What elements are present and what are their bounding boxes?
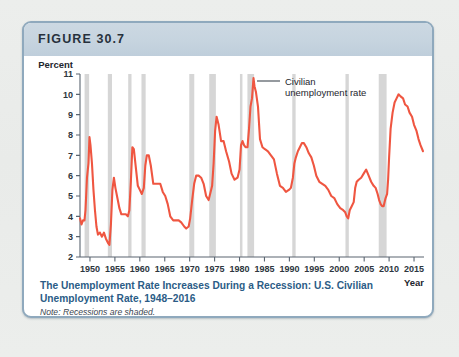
y-axis-title: Percent <box>38 59 74 70</box>
y-tick-label: 10 <box>63 90 73 100</box>
figure-root: FIGURE 30.7 Civilianunemployment rate 23… <box>0 0 459 357</box>
x-tick-label: 2000 <box>329 264 349 274</box>
annotation-label-line1: Civilian <box>285 76 316 87</box>
caption-title: The Unemployment Rate Increases During a… <box>40 279 420 305</box>
unemployment-rate-line-chart: Civilianunemployment rate 23456789101119… <box>24 56 434 286</box>
y-tick-label: 7 <box>68 151 73 161</box>
x-tick-label: 1990 <box>279 264 299 274</box>
recession-band <box>379 74 387 257</box>
recession-band <box>345 74 348 257</box>
x-tick-label: 1970 <box>180 264 200 274</box>
recession-band <box>189 74 194 257</box>
y-tick-label: 5 <box>68 191 73 201</box>
annotation-label-line2: unemployment rate <box>285 87 366 98</box>
x-tick-label: 1955 <box>105 264 125 274</box>
y-tick-label: 6 <box>68 171 73 181</box>
x-tick-label: 2015 <box>404 264 424 274</box>
y-tick-label: 2 <box>68 252 73 262</box>
x-tick-label: 1960 <box>130 264 150 274</box>
x-tick-label: 1965 <box>155 264 175 274</box>
y-tick-label: 11 <box>63 69 73 79</box>
figure-card: FIGURE 30.7 Civilianunemployment rate 23… <box>22 21 434 318</box>
y-tick-label: 3 <box>68 232 73 242</box>
recession-bands-group <box>85 74 387 257</box>
caption-note: Note: Recessions are shaded. <box>40 307 420 318</box>
x-tick-label: 1975 <box>205 264 225 274</box>
figure-number-label: FIGURE 30.7 <box>38 32 125 46</box>
x-tick-label: 2010 <box>379 264 399 274</box>
note-lead: Note: <box>40 307 61 317</box>
chart-plot-area: Civilianunemployment rate 23456789101119… <box>24 56 434 286</box>
note-body: Recessions are shaded. <box>61 307 156 317</box>
x-tick-label: 1980 <box>230 264 250 274</box>
x-tick-label: 2005 <box>354 264 374 274</box>
y-tick-label: 4 <box>68 212 73 222</box>
y-tick-label: 8 <box>68 130 73 140</box>
x-tick-label: 1985 <box>254 264 274 274</box>
y-tick-label: 9 <box>68 110 73 120</box>
figure-header-band: FIGURE 30.7 <box>24 23 432 57</box>
x-tick-label: 1950 <box>80 264 100 274</box>
caption-block: The Unemployment Rate Increases During a… <box>24 279 434 318</box>
annotation-group: Civilianunemployment rate <box>257 76 366 99</box>
x-tick-label: 1995 <box>304 264 324 274</box>
